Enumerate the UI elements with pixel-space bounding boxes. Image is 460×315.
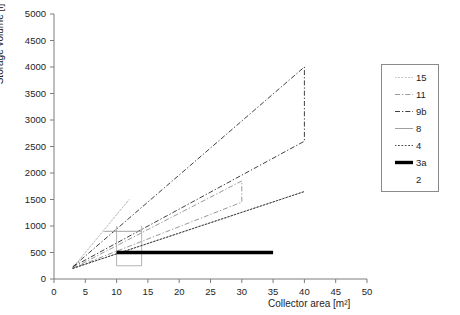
y-axis-label: Storage volume [l] bbox=[0, 0, 5, 104]
legend-item-9b[interactable]: 9b bbox=[382, 103, 438, 120]
series-11 bbox=[73, 181, 242, 268]
x-tick-label: 50 bbox=[352, 286, 382, 297]
y-tick-label: 0 bbox=[6, 273, 46, 284]
legend-label: 8 bbox=[416, 123, 431, 134]
series-8 bbox=[104, 226, 142, 266]
y-tick-label: 3500 bbox=[6, 88, 46, 99]
y-tick-label: 2500 bbox=[6, 141, 46, 152]
y-tick-label: 3000 bbox=[6, 114, 46, 125]
y-tick-label: 4000 bbox=[6, 61, 46, 72]
legend-swatch-2 bbox=[395, 175, 413, 184]
legend-label: 15 bbox=[416, 72, 431, 83]
x-axis-ticks bbox=[54, 279, 367, 283]
legend-swatch-15 bbox=[395, 73, 413, 82]
x-tick-label: 0 bbox=[39, 286, 69, 297]
legend-swatch-11 bbox=[395, 90, 413, 99]
legend-item-11[interactable]: 11 bbox=[382, 86, 438, 103]
legend-item-15[interactable]: 15 bbox=[382, 69, 438, 86]
y-tick-label: 5000 bbox=[6, 8, 46, 19]
legend-label: 11 bbox=[416, 89, 431, 100]
x-tick-label: 15 bbox=[133, 286, 163, 297]
legend-label: 9b bbox=[416, 106, 431, 117]
legend-item-3a[interactable]: 3a bbox=[382, 154, 438, 171]
legend-label: 4 bbox=[416, 140, 431, 151]
x-tick-label: 25 bbox=[196, 286, 226, 297]
legend-item-4[interactable]: 4 bbox=[382, 137, 438, 154]
x-tick-label: 40 bbox=[289, 286, 319, 297]
y-tick-label: 2000 bbox=[6, 167, 46, 178]
legend-item-8[interactable]: 8 bbox=[382, 120, 438, 137]
x-tick-label: 20 bbox=[164, 286, 194, 297]
chart-figure: 0500100015002000250030003500400045005000… bbox=[0, 0, 460, 315]
x-tick-label: 5 bbox=[70, 286, 100, 297]
x-tick-label: 10 bbox=[102, 286, 132, 297]
legend-swatch-8 bbox=[395, 124, 413, 133]
y-tick-label: 500 bbox=[6, 247, 46, 258]
y-tick-label: 4500 bbox=[6, 35, 46, 46]
x-tick-label: 35 bbox=[258, 286, 288, 297]
plot-area bbox=[54, 14, 367, 279]
legend-swatch-3a bbox=[395, 158, 413, 167]
legend-swatch-4 bbox=[395, 141, 413, 150]
legend-swatch-9b bbox=[395, 107, 413, 116]
legend-label: 3a bbox=[416, 157, 431, 168]
x-tick-label: 45 bbox=[321, 286, 351, 297]
data-series-group bbox=[54, 14, 367, 279]
series-9b bbox=[73, 67, 305, 267]
x-axis-label: Collector area [m²] bbox=[268, 298, 350, 309]
x-tick-label: 30 bbox=[227, 286, 257, 297]
y-tick-label: 1000 bbox=[6, 220, 46, 231]
chart-legend: 15119b843a2 bbox=[381, 64, 439, 192]
legend-item-2[interactable]: 2 bbox=[382, 171, 438, 188]
y-tick-label: 1500 bbox=[6, 194, 46, 205]
series-4 bbox=[73, 192, 305, 269]
legend-label: 2 bbox=[416, 174, 431, 185]
